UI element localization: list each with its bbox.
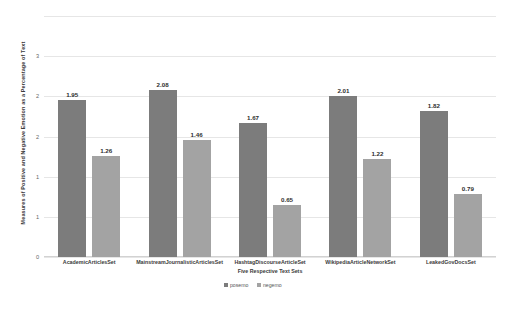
x-axis-title: Five Respective Text Sets xyxy=(44,268,496,274)
bar-chart: Measures of Positive and Negative Emotio… xyxy=(0,0,506,312)
bar-value-label: 0.79 xyxy=(462,185,474,192)
x-tick-label: MainstreamJournalisticArticlesSet xyxy=(134,259,224,265)
bar-negemo: 0.79 xyxy=(454,194,482,257)
bar-posemo: 1.67 xyxy=(239,123,267,257)
y-tick-label: 0 xyxy=(36,254,39,260)
bar-posemo: 1.82 xyxy=(420,111,448,257)
bar-posemo: 2.01 xyxy=(329,96,357,257)
bar-value-label: 1.82 xyxy=(428,102,440,109)
bar-group: 2.011.22 xyxy=(315,16,405,257)
legend-item[interactable]: negemo xyxy=(257,282,281,288)
x-tick-label: HashtagDiscourseArticleSet xyxy=(225,259,315,265)
x-tick-label: AcademicArticlesSet xyxy=(44,259,134,265)
bar-value-label: 0.65 xyxy=(281,196,293,203)
bar-negemo: 1.46 xyxy=(183,140,211,257)
legend-item[interactable]: posemo xyxy=(224,282,248,288)
x-tick-label: LeakedGovDocsSet xyxy=(406,259,496,265)
y-tick-label: 2 xyxy=(36,93,39,99)
legend-label: negemo xyxy=(263,282,282,288)
y-tick-label: 2 xyxy=(36,134,39,140)
legend-swatch-icon xyxy=(257,283,261,287)
bar-negemo: 1.22 xyxy=(363,159,391,257)
bar-groups: 1.951.262.081.461.670.652.011.221.820.79 xyxy=(44,16,496,257)
y-tick-label: 3 xyxy=(36,53,39,59)
bar-value-label: 1.95 xyxy=(66,91,78,98)
bar-group: 2.081.46 xyxy=(134,16,224,257)
x-tick-labels: AcademicArticlesSetMainstreamJournalisti… xyxy=(44,259,496,265)
bar-group: 1.670.65 xyxy=(225,16,315,257)
legend-label: posemo xyxy=(230,282,248,288)
plot-area: 011223 1.951.262.081.461.670.652.011.221… xyxy=(44,16,496,257)
chart-legend: posemonegemo xyxy=(0,282,506,288)
bar-negemo: 0.65 xyxy=(273,205,301,257)
bar-value-label: 1.26 xyxy=(100,147,112,154)
bar-value-label: 2.01 xyxy=(337,87,349,94)
bar-group: 1.820.79 xyxy=(406,16,496,257)
bar-value-label: 1.22 xyxy=(371,150,383,157)
bar-posemo: 1.95 xyxy=(58,100,86,257)
y-tick-label: 1 xyxy=(36,174,39,180)
legend-swatch-icon xyxy=(224,283,228,287)
bar-group: 1.951.26 xyxy=(44,16,134,257)
gridline xyxy=(44,257,496,258)
y-axis-title: Measures of Positive and Negative Emotio… xyxy=(20,18,26,248)
bar-value-label: 2.08 xyxy=(157,81,169,88)
bar-value-label: 1.67 xyxy=(247,114,259,121)
y-tick-label: 1 xyxy=(36,214,39,220)
bar-posemo: 2.08 xyxy=(149,90,177,257)
x-tick-label: WikipediaArticleNetworkSet xyxy=(315,259,405,265)
bar-negemo: 1.26 xyxy=(92,156,120,257)
bar-value-label: 1.46 xyxy=(191,131,203,138)
